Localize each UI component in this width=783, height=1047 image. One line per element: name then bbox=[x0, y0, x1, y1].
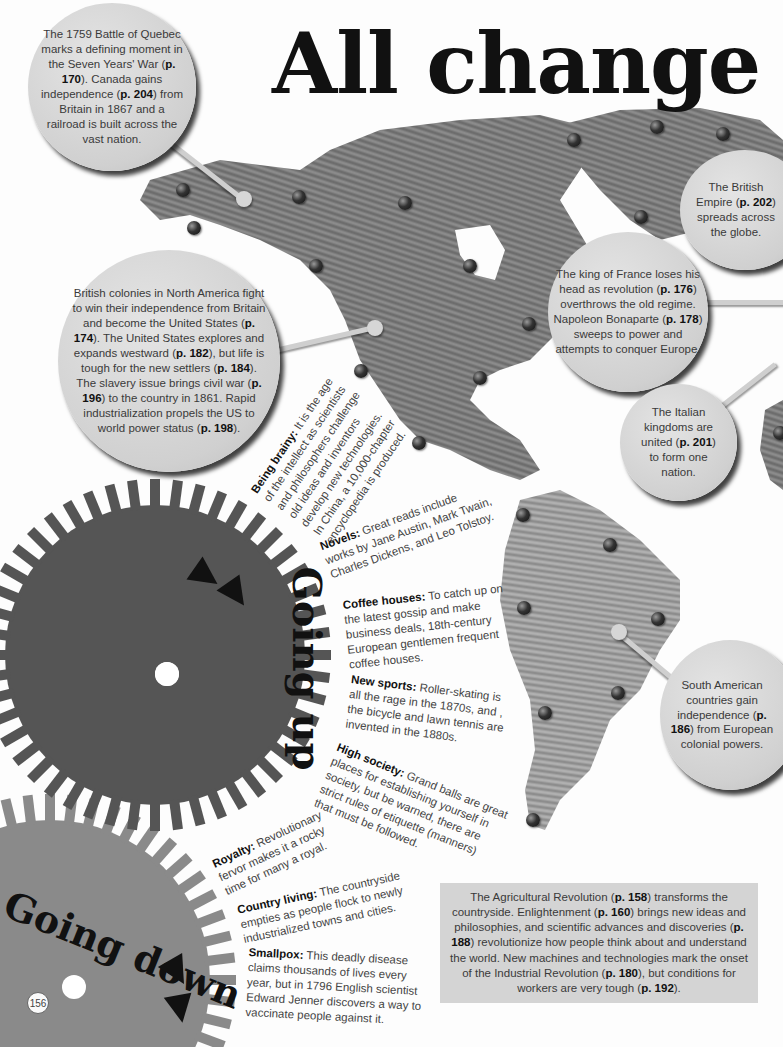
map-pin bbox=[176, 183, 190, 197]
map-pin bbox=[522, 317, 536, 331]
map-pin bbox=[517, 601, 531, 615]
map-pin bbox=[516, 508, 530, 522]
connector-knob bbox=[367, 320, 383, 336]
map-pin bbox=[567, 133, 581, 147]
gear-hub-up bbox=[155, 662, 179, 686]
map-pin bbox=[650, 120, 664, 134]
map-pin bbox=[526, 813, 540, 827]
callout-text: British colonies in North America fight … bbox=[72, 286, 266, 435]
callout-text: The king of France loses his head as rev… bbox=[552, 267, 704, 357]
map-pin bbox=[292, 190, 306, 204]
connector-knob bbox=[236, 191, 252, 207]
callout-italy: The Italian kingdoms are united (p. 201)… bbox=[620, 384, 737, 501]
going-up-label: Going up bbox=[284, 566, 331, 770]
connector-knob bbox=[611, 624, 627, 640]
map-pin bbox=[651, 612, 665, 626]
map-pin bbox=[463, 259, 477, 273]
summary-panel: The Agricultural Revolution (p. 158) tra… bbox=[440, 883, 758, 1003]
callout-quebec: The 1759 Battle of Quebec marks a defini… bbox=[28, 3, 196, 171]
map-pin bbox=[473, 371, 487, 385]
callout-united-states: British colonies in North America fight … bbox=[58, 250, 280, 472]
callout-text: The Italian kingdoms are united (p. 201)… bbox=[636, 405, 721, 480]
callout-text: The British Empire (p. 202) spreads acro… bbox=[692, 180, 780, 240]
fact-smallpox: Smallpox: This deadly disease claims tho… bbox=[245, 945, 424, 1029]
map-pin bbox=[412, 436, 426, 450]
arrow-down-icon bbox=[164, 993, 196, 1025]
map-pin bbox=[773, 426, 783, 440]
callout-text: The 1759 Battle of Quebec marks a defini… bbox=[40, 27, 184, 147]
map-pin bbox=[398, 196, 412, 210]
map-pin bbox=[187, 221, 201, 235]
map-pin bbox=[538, 706, 552, 720]
map-pin bbox=[309, 259, 323, 273]
callout-text: South American countries gain independen… bbox=[666, 678, 778, 753]
gear-hub-down bbox=[62, 975, 86, 999]
europe-landmass bbox=[760, 400, 783, 490]
map-pin bbox=[716, 127, 730, 141]
map-pin bbox=[354, 364, 368, 378]
map-pin bbox=[611, 686, 625, 700]
page-title: All change bbox=[272, 22, 760, 106]
callout-france: The king of France loses his head as rev… bbox=[548, 232, 708, 392]
page-number: 156 bbox=[27, 992, 49, 1014]
summary-text: The Agricultural Revolution (p. 158) tra… bbox=[450, 890, 748, 996]
map-pin bbox=[634, 210, 648, 224]
map-pin bbox=[603, 538, 617, 552]
